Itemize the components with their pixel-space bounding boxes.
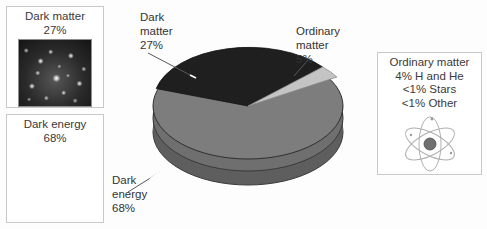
callout-dark-energy-line2: energy xyxy=(112,187,147,201)
callout-dark-matter-line1: Dark xyxy=(140,10,173,24)
callout-dark-matter: Dark matter 27% xyxy=(140,10,173,52)
callout-dark-energy-line3: 68% xyxy=(112,201,147,215)
callout-dark-energy-line1: Dark xyxy=(112,173,147,187)
figure-canvas: Dark matter 27% Dark energy 68% Ordinary… xyxy=(0,0,487,229)
callout-ordinary-matter-line3: 5% xyxy=(296,52,340,66)
callout-ordinary-matter-line2: matter xyxy=(296,38,340,52)
callout-ordinary-matter-line1: Ordinary xyxy=(296,24,340,38)
callout-leader-lines xyxy=(0,0,487,229)
callout-dark-energy: Dark energy 68% xyxy=(112,173,147,215)
callout-ordinary-matter: Ordinary matter 5% xyxy=(296,24,340,66)
callout-dark-matter-line2: matter xyxy=(140,24,173,38)
callout-dark-matter-line3: 27% xyxy=(140,38,173,52)
